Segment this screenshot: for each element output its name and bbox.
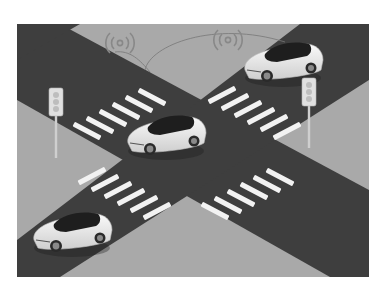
intersection-illustration: [0, 0, 387, 292]
